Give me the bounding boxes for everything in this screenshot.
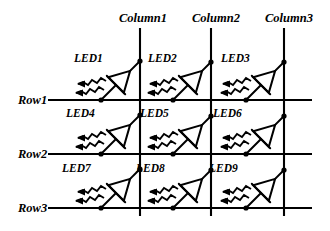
led-label-led2: LED2 <box>147 52 177 64</box>
led-label-led4: LED4 <box>65 107 95 119</box>
junction-dot-led4-row <box>98 151 103 156</box>
cathode-lead-led5 <box>173 139 188 154</box>
cathode-lead-led4 <box>101 139 116 154</box>
emission-arrowhead-led8-1 <box>149 188 157 195</box>
led-symbol-led2[interactable] <box>147 62 211 100</box>
junction-dot-led9-row <box>243 205 248 210</box>
emission-arrowhead-led2-2 <box>147 89 155 96</box>
row-label-row1: Row1 <box>17 93 47 107</box>
junction-dot-led5-row <box>170 151 175 156</box>
emission-arrowhead-led7-1 <box>77 188 85 195</box>
emission-arrowhead-led9-1 <box>222 188 230 195</box>
column-label-column2: Column2 <box>192 11 240 25</box>
emission-arrowhead-led8-2 <box>147 197 155 204</box>
emission-arrowhead-led2-1 <box>149 80 157 87</box>
led-symbol-led7[interactable] <box>75 169 140 208</box>
led-symbol-led9[interactable] <box>220 170 284 208</box>
emission-arrowhead-led9-2 <box>220 197 228 204</box>
column-label-column3: Column3 <box>265 11 313 25</box>
led-label-led6: LED6 <box>212 107 242 119</box>
led-label-led5: LED5 <box>139 107 169 119</box>
led-symbol-led1[interactable] <box>75 61 140 100</box>
column-label-column1: Column1 <box>119 11 167 25</box>
junction-dot-led7-row <box>98 205 103 210</box>
cathode-lead-led9 <box>246 193 261 208</box>
led-symbol-led6[interactable] <box>220 116 284 154</box>
cathode-lead-led6 <box>246 139 261 154</box>
cathode-lead-led1 <box>101 85 116 100</box>
led-symbols-group <box>75 61 284 208</box>
emission-arrowhead-led1-2 <box>75 89 83 96</box>
junction-dot-led9-column <box>281 167 286 172</box>
junction-dot-led6-column <box>281 113 286 118</box>
emission-arrowhead-led6-1 <box>222 134 230 141</box>
emission-arrowhead-led6-2 <box>220 143 228 150</box>
row-label-row2: Row2 <box>17 147 47 161</box>
emission-arrowhead-led3-1 <box>222 80 230 87</box>
led-matrix-diagram: LED1LED2LED3LED4LED5LED6LED7LED8LED9Colu… <box>0 0 330 231</box>
led-label-led9: LED9 <box>208 162 238 174</box>
emission-arrowhead-led7-2 <box>75 197 83 204</box>
emission-arrowhead-led5-1 <box>149 134 157 141</box>
emission-arrowhead-led4-2 <box>75 143 83 150</box>
led-label-led1: LED1 <box>73 52 103 64</box>
junction-dot-led3-column <box>281 59 286 64</box>
led-label-led3: LED3 <box>220 52 250 64</box>
junction-dot-led2-row <box>170 97 175 102</box>
junction-dot-led1-row <box>98 97 103 102</box>
led-symbol-led4[interactable] <box>75 115 140 154</box>
led-symbol-led5[interactable] <box>147 116 211 154</box>
row-label-row3: Row3 <box>17 201 47 215</box>
emission-arrowhead-led1-1 <box>77 80 85 87</box>
cathode-lead-led2 <box>173 85 188 100</box>
junction-dot-led2-column <box>208 59 213 64</box>
junction-dot-led3-row <box>243 97 248 102</box>
junction-dot-led1-column <box>137 58 142 63</box>
led-symbol-led3[interactable] <box>220 62 284 100</box>
emission-arrowhead-led5-2 <box>147 143 155 150</box>
emission-arrowhead-led3-2 <box>220 89 228 96</box>
circuit-schematic-svg: LED1LED2LED3LED4LED5LED6LED7LED8LED9Colu… <box>0 0 330 231</box>
cathode-lead-led3 <box>246 85 261 100</box>
junction-dot-led6-row <box>243 151 248 156</box>
led-label-led7: LED7 <box>61 162 92 174</box>
led-label-led8: LED8 <box>135 162 165 174</box>
emission-arrowhead-led4-1 <box>77 134 85 141</box>
led-symbol-led8[interactable] <box>147 170 211 208</box>
cathode-lead-led8 <box>173 193 188 208</box>
cathode-lead-led7 <box>101 193 116 208</box>
junction-dot-led8-row <box>170 205 175 210</box>
